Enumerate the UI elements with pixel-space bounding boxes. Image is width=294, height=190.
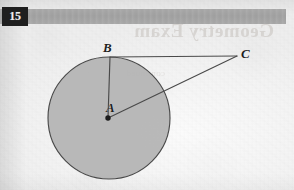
point-a-dot — [105, 115, 110, 120]
segment-bc — [110, 56, 237, 57]
geometry-figure — [0, 0, 294, 190]
vertex-label-c: C — [241, 47, 250, 60]
vertex-label-a: A — [106, 101, 115, 114]
scanned-page: Geometry Exam continued 15 B A C — [0, 0, 294, 190]
vertex-label-b: B — [103, 41, 112, 54]
